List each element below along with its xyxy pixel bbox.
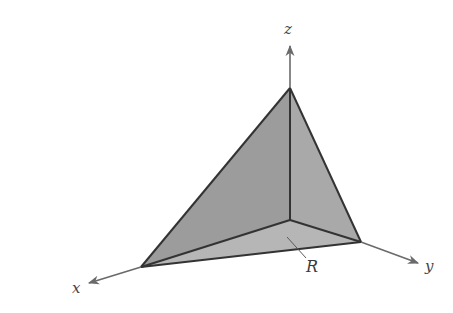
z-axis-label: z: [284, 22, 292, 37]
y-axis: [361, 242, 418, 263]
region-r-label: R: [306, 259, 318, 275]
y-axis-label: y: [425, 259, 433, 274]
x-axis-label: x: [72, 281, 80, 296]
x-axis: [89, 267, 141, 283]
tetrahedron-diagram: z x y R: [0, 0, 453, 313]
diagram-canvas: [0, 0, 453, 313]
